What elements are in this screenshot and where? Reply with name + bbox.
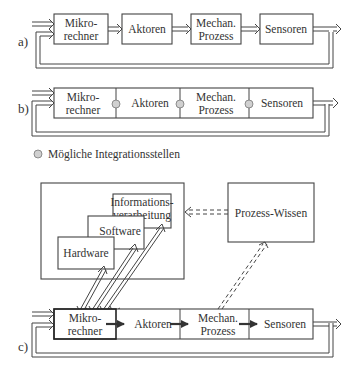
section-b-label: b) <box>18 101 29 116</box>
layer-hardware: Hardware <box>58 237 114 269</box>
svg-text:rechner: rechner <box>64 30 99 42</box>
svg-text:Prozess: Prozess <box>198 30 234 42</box>
svg-text:Sensoren: Sensoren <box>264 318 306 330</box>
svg-text:Prozess: Prozess <box>198 104 234 116</box>
output-arrow <box>313 319 341 329</box>
integration-marker <box>176 100 184 108</box>
input-arrow <box>32 88 54 98</box>
block-aktoren: Aktoren <box>122 14 172 44</box>
block-mechan-prozess: Mechan. Prozess <box>191 14 241 44</box>
svg-text:Prozess: Prozess <box>200 325 236 337</box>
block-prozess-wissen: Prozess-Wissen <box>228 183 314 242</box>
svg-text:Mikro-: Mikro- <box>67 91 100 103</box>
legend-text: Mögliche Integrationsstellen <box>48 148 180 161</box>
svg-text:Aktoren: Aktoren <box>134 318 172 330</box>
svg-text:Sensoren: Sensoren <box>261 97 303 109</box>
input-arrow <box>32 19 54 29</box>
section-c: Informations- verarbeitung Software Hard… <box>18 183 341 357</box>
output-arrow <box>313 24 341 34</box>
svg-text:Mikro-: Mikro- <box>65 17 98 29</box>
svg-text:rechner: rechner <box>66 104 101 116</box>
svg-text:Mikro-: Mikro- <box>69 312 102 324</box>
section-a: a) Mikro- rechner Aktoren <box>18 14 341 68</box>
process-link <box>218 242 268 309</box>
svg-text:Mechan.: Mechan. <box>196 17 236 29</box>
arrow-a3 <box>241 24 260 34</box>
integration-marker <box>245 100 253 108</box>
knowledge-arrow <box>185 207 228 217</box>
svg-text:Mechan.: Mechan. <box>198 312 238 324</box>
arrow-a1 <box>108 24 122 34</box>
svg-text:Sensoren: Sensoren <box>265 23 307 35</box>
block-mikrorechner: Mikro- rechner <box>54 14 108 44</box>
legend: Mögliche Integrationsstellen <box>34 148 180 161</box>
mechatronics-diagram: a) Mikro- rechner Aktoren <box>0 0 352 369</box>
svg-text:Informations-: Informations- <box>110 196 173 208</box>
svg-text:Software: Software <box>99 225 141 237</box>
section-b: b) Mikro- rechner Aktoren Mechan. Prozes… <box>18 88 338 161</box>
integration-marker <box>112 100 120 108</box>
svg-text:Prozess-Wissen: Prozess-Wissen <box>235 207 308 219</box>
svg-text:Aktoren: Aktoren <box>131 97 169 109</box>
svg-text:Mechan.: Mechan. <box>196 91 236 103</box>
svg-text:rechner: rechner <box>68 325 103 337</box>
section-a-label: a) <box>18 34 28 49</box>
input-arrow <box>32 309 54 319</box>
legend-marker <box>34 150 42 158</box>
svg-text:Aktoren: Aktoren <box>128 23 166 35</box>
arrow-a2 <box>172 24 191 34</box>
svg-text:Hardware: Hardware <box>63 247 108 259</box>
block-sensoren: Sensoren <box>260 14 313 44</box>
section-c-label: c) <box>18 339 28 354</box>
